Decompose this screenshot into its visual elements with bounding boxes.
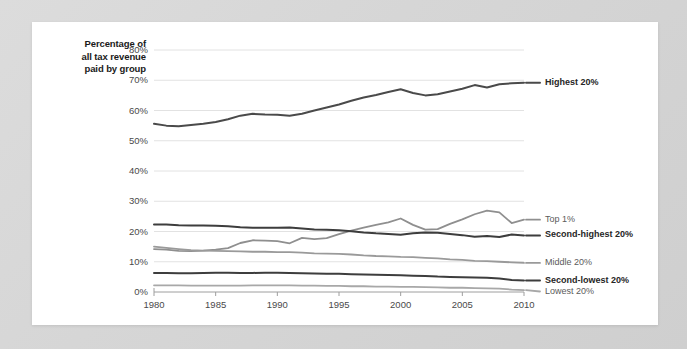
y-axis-tick-label: 20% xyxy=(122,226,148,237)
legend-marker xyxy=(526,290,540,291)
legend-label: Second-lowest 20% xyxy=(545,275,629,285)
chart-card: Percentage of all tax revenue paid by gr… xyxy=(32,22,658,325)
legend-label: Second-highest 20% xyxy=(545,229,633,239)
x-axis-tick-label: 1985 xyxy=(196,299,236,310)
x-axis-tick-label: 1995 xyxy=(319,299,359,310)
axis-tick-marks xyxy=(154,292,524,296)
y-axis-tick-label: 30% xyxy=(122,195,148,206)
legend-label: Top 1% xyxy=(545,214,575,224)
series-line xyxy=(154,247,524,263)
legend-label: Highest 20% xyxy=(545,77,599,87)
x-axis-tick-label: 1980 xyxy=(134,299,174,310)
x-axis-tick-label: 2010 xyxy=(504,299,544,310)
series-line xyxy=(154,273,524,281)
x-axis-tick-label: 2005 xyxy=(442,299,482,310)
series-line xyxy=(154,285,524,290)
y-axis-tick-label: 40% xyxy=(122,165,148,176)
y-axis-tick-label: 50% xyxy=(122,135,148,146)
legend-markers xyxy=(526,83,540,292)
x-axis-tick-label: 1990 xyxy=(257,299,297,310)
legend-label: Middle 20% xyxy=(545,257,592,267)
y-axis-tick-label: 0% xyxy=(122,286,148,297)
y-axis-tick-label: 10% xyxy=(122,256,148,267)
y-axis-tick-label: 60% xyxy=(122,105,148,116)
y-axis-tick-label: 70% xyxy=(122,74,148,85)
y-axis-tick-label: 80% xyxy=(122,44,148,55)
x-axis-tick-label: 2000 xyxy=(381,299,421,310)
series-line xyxy=(154,83,524,127)
legend-label: Lowest 20% xyxy=(545,286,594,296)
tax-revenue-line-chart: Percentage of all tax revenue paid by gr… xyxy=(32,22,658,325)
series-lines xyxy=(154,83,524,291)
